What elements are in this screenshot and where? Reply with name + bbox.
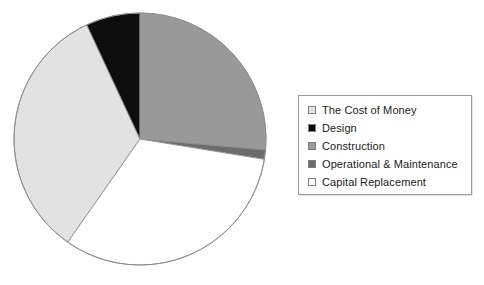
legend-item: Design bbox=[308, 119, 467, 137]
legend-item: Capital Replacement bbox=[308, 173, 467, 191]
swatch-design bbox=[308, 124, 316, 132]
legend-item-list: The Cost of MoneyDesignConstructionOpera… bbox=[308, 101, 467, 191]
legend-item-label: The Cost of Money bbox=[322, 104, 417, 116]
chart-legend: The Cost of MoneyDesignConstructionOpera… bbox=[298, 95, 472, 195]
legend-item-label: Design bbox=[322, 122, 357, 134]
legend-item: Construction bbox=[308, 137, 467, 155]
swatch-construction bbox=[308, 142, 316, 150]
pie-slices-group bbox=[14, 13, 266, 265]
pie-slice-construction bbox=[140, 13, 266, 150]
legend-item-label: Operational & Maintenance bbox=[322, 158, 458, 170]
legend-item-label: Construction bbox=[322, 140, 385, 152]
pie-chart-figure: The Cost of MoneyDesignConstructionOpera… bbox=[0, 0, 484, 285]
swatch-operational-maintenance bbox=[308, 160, 316, 168]
swatch-cost-of-money bbox=[308, 106, 316, 114]
legend-item-label: Capital Replacement bbox=[322, 176, 426, 188]
legend-item: The Cost of Money bbox=[308, 101, 467, 119]
legend-item: Operational & Maintenance bbox=[308, 155, 467, 173]
swatch-capital-replacement bbox=[308, 178, 316, 186]
